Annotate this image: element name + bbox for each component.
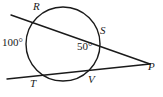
angle-label-arc-rt: 100° [2, 37, 23, 48]
point-label-s: S [100, 25, 106, 36]
point-label-t: T [30, 78, 36, 89]
point-label-v: V [88, 74, 95, 85]
secant-line-tvp [7, 64, 150, 79]
angle-label-interior: 50° [77, 41, 92, 52]
point-label-r: R [33, 1, 40, 12]
point-label-p: P [148, 61, 155, 72]
geometry-figure: R S P T V 100° 50° [0, 0, 163, 97]
